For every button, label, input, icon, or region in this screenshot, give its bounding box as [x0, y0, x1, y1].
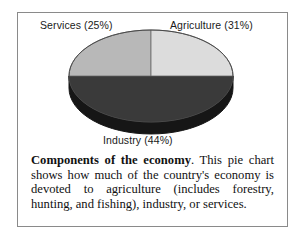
pie-chart-graphic [18, 13, 287, 153]
caption-title: Components of the economy [31, 153, 191, 167]
pie-chart: Services (25%) Agriculture (31%) Industr… [18, 13, 287, 153]
pie-slice-services [69, 30, 151, 76]
figure-frame: Services (25%) Agriculture (31%) Industr… [17, 12, 288, 227]
pie-slice-agriculture [151, 30, 233, 76]
figure-caption: Components of the economy. This pie char… [31, 153, 274, 211]
